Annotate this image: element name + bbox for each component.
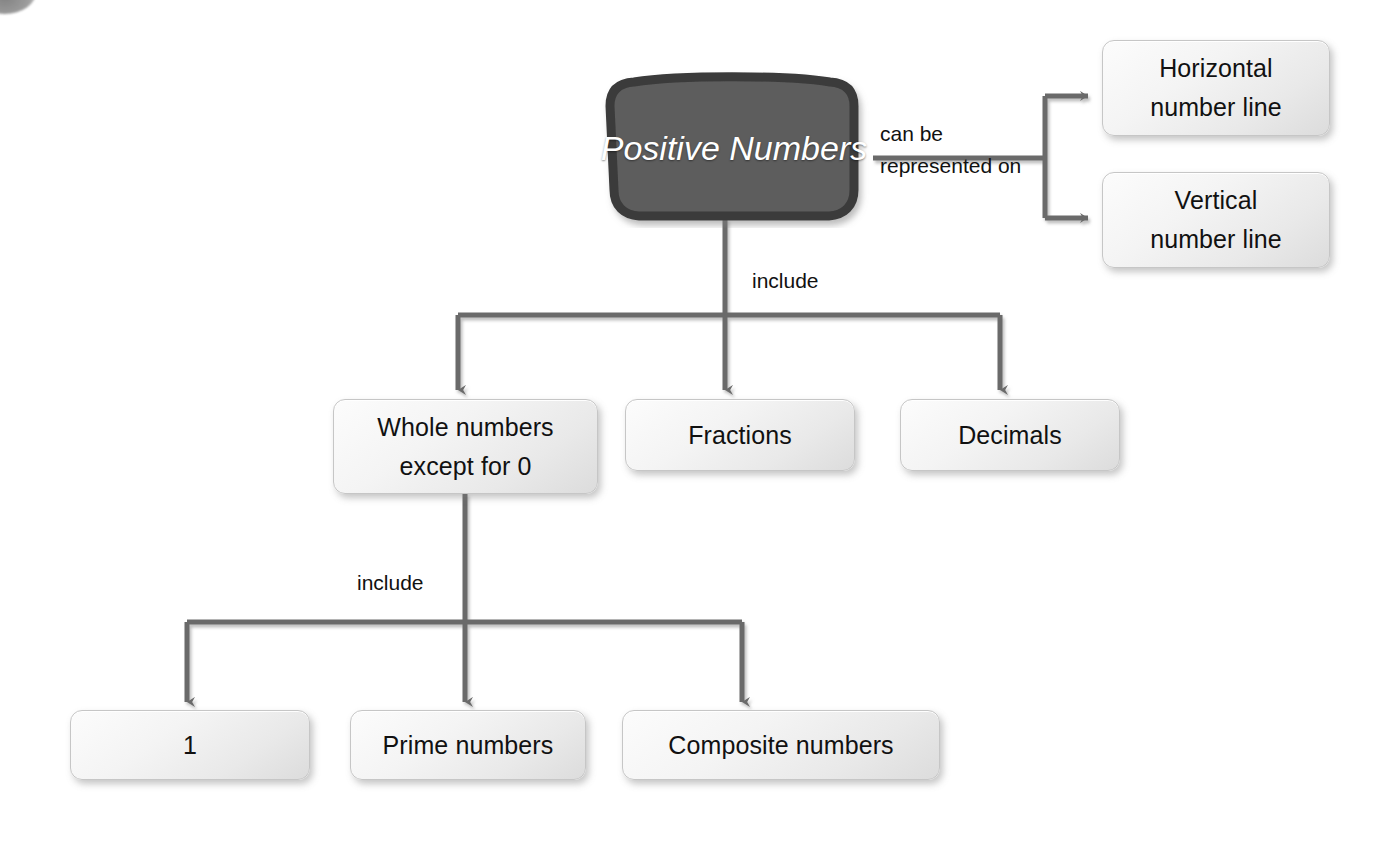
node-label-line1: Horizontal [1150,49,1282,88]
edge-label-line3: on [998,154,1021,177]
node-label: Horizontal number line [1150,49,1282,127]
page-number-badge-icon [0,0,36,14]
node-label: Composite numbers [668,726,893,765]
node-horizontal-number-line[interactable]: Horizontal number line [1102,40,1330,136]
node-label-line1: Positive [601,129,720,167]
edge-label-include-top: include [752,265,819,297]
node-label-line1: Prime numbers [383,726,554,765]
node-composite-numbers[interactable]: Composite numbers [622,710,940,780]
node-label-line2: number line [1150,88,1282,127]
node-label-line1: Vertical [1150,181,1282,220]
node-label-line2: except for 0 [377,447,553,486]
node-label: Vertical number line [1150,181,1282,259]
node-positive-numbers[interactable]: Positive Numbers [586,70,882,228]
node-vertical-number-line[interactable]: Vertical number line [1102,172,1330,268]
node-label: Fractions [688,416,792,455]
node-label-line1: Whole numbers [377,408,553,447]
edge-label-line1: can be [880,122,943,145]
node-fractions[interactable]: Fractions [625,399,855,471]
node-prime-numbers[interactable]: Prime numbers [350,710,586,780]
node-label: Decimals [958,416,1062,455]
node-decimals[interactable]: Decimals [900,399,1120,471]
node-label: Positive Numbers [601,127,867,171]
node-label: 1 [183,726,197,765]
node-label-line2: number line [1150,220,1282,259]
edge-label-can-be-represented-on: can be represented on [880,118,1030,181]
edge-label-line2: represented [880,154,992,177]
node-label-line1: Fractions [688,416,792,455]
node-label-line1: 1 [183,726,197,765]
node-label-line2: Numbers [729,129,867,167]
node-whole-numbers-except-zero[interactable]: Whole numbers except for 0 [333,399,598,494]
concept-map-canvas: Positive Numbers can be represented on i… [0,0,1400,843]
node-label-line1: Decimals [958,416,1062,455]
node-label: Whole numbers except for 0 [377,408,553,486]
node-label: Prime numbers [383,726,554,765]
node-one[interactable]: 1 [70,710,310,780]
node-label-line1: Composite numbers [668,726,893,765]
edge-label-include-bottom: include [357,567,424,599]
